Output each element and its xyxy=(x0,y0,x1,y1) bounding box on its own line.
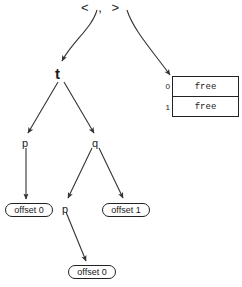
term-graph-diagram: < , > t p q p offset 0 offset 1 offset 0… xyxy=(0,0,242,287)
memory-cell-1: free xyxy=(173,97,239,117)
node-t: t xyxy=(55,66,60,81)
edge-t-to-p-left xyxy=(28,82,58,133)
node-p-middle: p xyxy=(62,204,68,215)
edge-layer xyxy=(0,0,242,287)
edge-q-to-p-mid xyxy=(68,148,92,198)
edge-q-to-offset-1 xyxy=(99,148,123,198)
leaf-offset-0-bottom: offset 0 xyxy=(68,265,116,279)
node-p-left: p xyxy=(22,138,28,149)
memory-row-index-1: 1 xyxy=(160,104,170,112)
memory-row-index-0: 0 xyxy=(160,83,170,91)
node-q: q xyxy=(92,138,98,149)
edge-root-to-t xyxy=(62,10,97,61)
edge-p-mid-to-offset-0-bottom xyxy=(66,212,86,261)
leaf-offset-1-right: offset 1 xyxy=(102,203,150,217)
memory-cell-0: free xyxy=(173,77,239,97)
leaf-offset-0-left: offset 0 xyxy=(5,203,53,217)
edge-root-to-memory xyxy=(127,10,170,75)
table-row: free xyxy=(173,97,239,117)
table-row: free xyxy=(173,77,239,97)
edge-t-to-q xyxy=(64,82,94,133)
free-cell-table: free free xyxy=(172,76,239,117)
tuple-root-label: < , > xyxy=(81,1,122,14)
